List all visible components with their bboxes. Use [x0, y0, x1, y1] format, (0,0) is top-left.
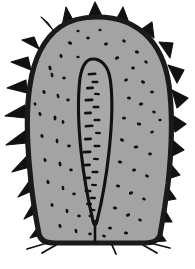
illustration-canvas: Spiny teardrop specimen Black and white … [0, 0, 195, 269]
inner-dash-17 [91, 184, 97, 187]
spine-upper-left-2 [22, 37, 39, 49]
inner-dash-22 [89, 215, 94, 217]
hair-base-right-1 [150, 243, 170, 248]
specimen-illustration [0, 0, 195, 269]
inner-dash-1 [91, 81, 98, 84]
inner-dash-15 [91, 171, 98, 174]
inner-dash-3 [94, 93, 100, 96]
inner-dash-4 [84, 98, 93, 101]
inner-dash-18 [84, 190, 91, 193]
inner-dash-14 [83, 164, 91, 167]
surface-speckle-42 [72, 193, 76, 196]
hair-base-center [112, 245, 116, 254]
surface-speckle-1 [86, 37, 90, 40]
surface-speckle-6 [76, 56, 79, 59]
inner-dash-12 [82, 150, 91, 153]
surface-speckle-25 [122, 117, 126, 120]
inner-dash-2 [86, 87, 94, 90]
surface-speckle-61 [76, 30, 79, 33]
inner-dash-21 [90, 209, 95, 211]
surface-speckle-12 [62, 77, 66, 80]
hair-base-right-2 [143, 245, 157, 253]
hair-base-left-1 [27, 243, 47, 249]
spine-left-2 [7, 80, 27, 93]
surface-speckle-60 [98, 29, 101, 32]
spine-left-4 [6, 131, 27, 145]
surface-speckle-18 [66, 99, 70, 102]
spine-upper-left-1 [41, 17, 53, 30]
inner-dash-7 [93, 119, 100, 122]
surface-speckle-56 [88, 233, 92, 236]
surface-speckle-54 [108, 227, 112, 230]
inner-dash-6 [84, 112, 92, 115]
inner-dash-20 [86, 203, 92, 206]
surface-speckle-30 [67, 145, 71, 148]
surface-speckle-36 [69, 169, 73, 172]
inner-dash-9 [95, 132, 101, 135]
spine-left-1 [11, 57, 31, 70]
spine-right-3 [172, 115, 186, 132]
surface-speckle-59 [158, 119, 161, 122]
inner-dash-19 [90, 197, 96, 200]
inner-dash-10 [84, 138, 92, 141]
inner-dash-13 [93, 158, 99, 161]
inner-dash-16 [83, 176, 91, 179]
surface-speckle-15 [150, 91, 154, 94]
spine-right-2 [172, 90, 188, 108]
surface-speckle-48 [77, 215, 81, 218]
hair-base-left-2 [42, 245, 56, 253]
spine-left-3 [5, 105, 26, 118]
inner-dash-11 [93, 145, 100, 148]
inner-dash-5 [92, 106, 99, 109]
